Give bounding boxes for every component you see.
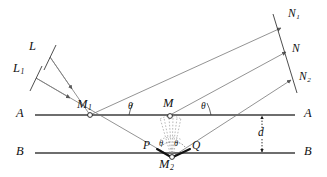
wavefront-line-L1	[30, 66, 42, 91]
label-point-M: M	[163, 97, 173, 110]
label-normal-N1-base: N	[288, 7, 296, 19]
reflected-ray-M1-N1	[90, 28, 281, 115]
reflected-ray-M-N	[170, 52, 286, 115]
point-marker-M1	[88, 113, 93, 118]
label-wavefront-L1: L1	[13, 62, 24, 76]
label-angle-theta-right: θ	[201, 102, 206, 112]
label-surface-B-left: B	[16, 145, 24, 158]
label-point-M2: M2	[159, 158, 174, 172]
label-wavefront-L1-sub: 1	[20, 67, 24, 76]
incident-ray-to-M1-arrow	[50, 57, 72, 89]
label-wavefront-L: L	[29, 40, 36, 53]
label-point-M2-base: M	[159, 157, 169, 171]
label-point-M1-sub: 1	[87, 103, 91, 112]
label-normal-N2-sub: 2	[307, 76, 311, 84]
label-separation-d: d	[258, 127, 264, 139]
label-normal-N2-base: N	[299, 70, 307, 82]
label-wavefront-L1-base: L	[13, 61, 20, 75]
label-surface-A-right: A	[304, 107, 312, 120]
dashed-cone	[160, 116, 182, 156]
incident-ray-to-M2-arrow	[36, 78, 70, 98]
label-angle-theta-left: θ	[128, 102, 133, 112]
cone-arc-lower	[160, 137, 182, 140]
label-point-Q: Q	[192, 140, 200, 152]
wavefront-line-L	[44, 45, 56, 70]
ray-diagram-figure: L L1 N1 N N2 M1 M M2 P Q A A B B θ θ θ θ…	[0, 0, 327, 177]
label-point-P: P	[143, 140, 150, 152]
point-marker-M	[168, 114, 173, 119]
label-angle-theta-lower-right: θ	[174, 139, 178, 148]
label-normal-N2: N2	[299, 71, 311, 84]
ray-diagram-canvas	[0, 0, 327, 177]
label-angle-theta-lower-left: θ	[159, 139, 163, 148]
label-point-M1: M1	[77, 98, 92, 112]
label-normal-N1: N1	[288, 8, 300, 21]
reflected-ray-M2-N2	[172, 80, 291, 157]
incident-rays	[36, 57, 172, 157]
label-point-M1-base: M	[77, 97, 87, 111]
surfaces	[35, 115, 295, 153]
label-surface-B-right: B	[304, 145, 312, 158]
angle-arcs-at-M2	[161, 142, 185, 147]
label-point-M2-sub: 2	[169, 163, 173, 172]
label-surface-A-left: A	[16, 107, 24, 120]
label-normal-N1-sub: 1	[296, 13, 300, 21]
angle-arc-theta-right	[207, 103, 211, 115]
cone-edge-left	[160, 118, 171, 156]
label-normal-N: N	[292, 43, 300, 55]
